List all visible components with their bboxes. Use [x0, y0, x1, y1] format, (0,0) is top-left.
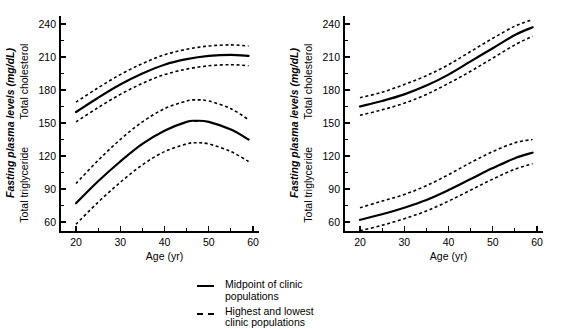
- y-axis-title-triglyceride: Total triglyceride: [302, 147, 314, 223]
- x-axis-title: Age (yr): [146, 250, 183, 262]
- y-axis-title-units: Fasting plasma levels (mg/dL): [288, 48, 300, 198]
- x-tick-label: 50: [487, 236, 499, 248]
- dashed-line-key-icon: [196, 306, 218, 320]
- series-line-range: [76, 100, 249, 184]
- series-line-range: [76, 45, 249, 102]
- y-tick-label: 90: [44, 183, 56, 195]
- series-line-midpoint: [360, 153, 533, 220]
- x-tick-label: 40: [443, 236, 455, 248]
- y-tick-label: 240: [322, 18, 340, 30]
- x-tick-label: 20: [70, 236, 82, 248]
- series-line-midpoint: [76, 55, 249, 112]
- chart-panel-left: 60901201501802102402030405060Age (yr)Fas…: [0, 0, 283, 270]
- series-line-range: [360, 20, 533, 98]
- legend-item-range: Highest and lowest clinic populations: [196, 306, 496, 329]
- y-tick-label: 90: [328, 183, 340, 195]
- x-tick-label: 30: [114, 236, 126, 248]
- legend-item-label: Highest and lowest clinic populations: [225, 306, 314, 329]
- y-tick-label: 210: [38, 51, 56, 63]
- series-line-range: [76, 143, 249, 224]
- y-axis-title-cholesterol: Total cholesterol: [302, 44, 314, 120]
- solid-line-key-icon: [196, 279, 218, 293]
- chart-legend: Midpoint of clinic populations Highest a…: [196, 279, 496, 323]
- y-axis-title-cholesterol: Total cholesterol: [18, 44, 30, 120]
- axis-spines: [60, 16, 259, 232]
- legend-item-label: Midpoint of clinic populations: [225, 279, 303, 303]
- x-tick-label: 20: [354, 236, 366, 248]
- y-axis-title-triglyceride: Total triglyceride: [18, 147, 30, 223]
- x-tick-label: 40: [159, 236, 171, 248]
- series-line-midpoint: [76, 121, 249, 204]
- series-line-midpoint: [360, 27, 533, 106]
- y-tick-label: 180: [38, 84, 56, 96]
- y-tick-label: 210: [322, 51, 340, 63]
- x-tick-label: 60: [531, 236, 543, 248]
- chart-panel-right: 60901201501802102402030405060Age (yr)Fas…: [284, 0, 567, 270]
- y-tick-label: 180: [322, 84, 340, 96]
- y-tick-label: 240: [38, 18, 56, 30]
- series-line-range: [76, 65, 249, 122]
- y-tick-label: 150: [38, 117, 56, 129]
- series-line-range: [360, 140, 533, 208]
- legend-item-midpoint: Midpoint of clinic populations: [196, 279, 496, 303]
- x-tick-label: 30: [398, 236, 410, 248]
- y-axis-title-units: Fasting plasma levels (mg/dL): [4, 48, 16, 198]
- y-tick-label: 60: [44, 216, 56, 228]
- x-axis-title: Age (yr): [430, 250, 467, 262]
- x-tick-label: 50: [203, 236, 215, 248]
- axis-spines: [344, 16, 543, 232]
- y-tick-label: 120: [38, 150, 56, 162]
- x-tick-label: 60: [247, 236, 259, 248]
- y-tick-label: 150: [322, 117, 340, 129]
- y-tick-label: 120: [322, 150, 340, 162]
- y-tick-label: 60: [328, 216, 340, 228]
- series-line-range: [360, 164, 533, 231]
